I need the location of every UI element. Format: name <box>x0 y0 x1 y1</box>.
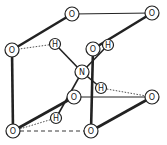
atom-o_top_mid: O <box>65 7 79 21</box>
atom-label: H <box>98 84 104 93</box>
atom-label: H <box>105 41 111 50</box>
atom-o_left: O <box>5 43 19 57</box>
bond-o_mid_back-o_top_right <box>93 13 152 49</box>
atom-o_bottom_left: O <box>6 124 20 138</box>
atom-o_mid_back: O <box>86 42 100 56</box>
bond-o_top_mid-o_top_right <box>72 13 152 14</box>
atom-h_right: H <box>96 83 107 94</box>
atom-label: O <box>9 46 15 55</box>
ammonia-in-water-cage-diagram: OOOOHHNHOOHOO <box>0 0 167 145</box>
atom-label: H <box>52 40 58 49</box>
atom-o_mid_low: O <box>67 90 81 104</box>
atom-label: O <box>90 45 96 54</box>
atom-label: O <box>71 93 77 102</box>
bond-o_left-o_bottom_left <box>12 50 13 131</box>
atom-h_upper_left: H <box>50 39 61 50</box>
atom-label: N <box>79 68 85 77</box>
atom-label: H <box>53 114 59 123</box>
atom-label: O <box>88 127 94 136</box>
bond-o_left-o_top_mid <box>12 14 72 50</box>
atom-o_bottom_right: O <box>84 124 98 138</box>
atom-label: O <box>149 9 155 18</box>
atom-label: O <box>10 127 16 136</box>
atoms-layer: OOOOHHNHOOHOO <box>5 6 159 138</box>
atom-label: O <box>149 93 155 102</box>
atom-h_lower: H <box>51 113 62 124</box>
atom-n_center: N <box>75 65 89 79</box>
atom-h_back: H <box>103 40 114 51</box>
bond-o_bottom_right-o_right_mid <box>91 97 152 131</box>
atom-label: O <box>69 10 75 19</box>
hydrogen-bond-h_right-o_right_mid <box>101 88 152 97</box>
atom-o_top_right: O <box>145 6 159 20</box>
atom-o_right_mid: O <box>145 90 159 104</box>
